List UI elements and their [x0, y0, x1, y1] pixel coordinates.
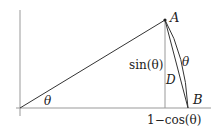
- sine-label: sin(θ): [129, 58, 163, 72]
- base-label: 1−cos(θ): [147, 113, 201, 127]
- point-a-dot: [163, 18, 166, 21]
- diagram-canvas: A B θ D sin(θ) θ 1−cos(θ): [0, 0, 213, 130]
- chord-d-label: D: [165, 73, 176, 87]
- angle-theta-label: θ: [44, 94, 52, 108]
- point-b-label: B: [192, 92, 203, 107]
- arc-theta-label: θ: [182, 55, 190, 69]
- point-a-label: A: [169, 10, 179, 25]
